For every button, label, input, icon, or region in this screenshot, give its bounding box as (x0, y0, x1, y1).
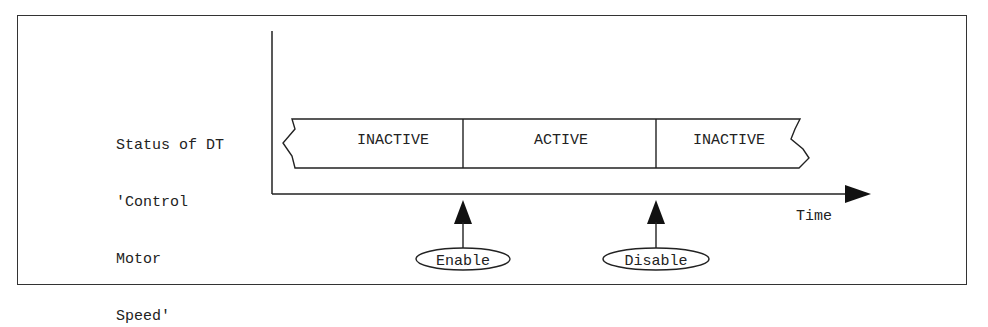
enable-event-label: Enable (436, 253, 490, 270)
x-axis-label: Time (796, 208, 832, 225)
state-label-inactive-1: INACTIVE (357, 132, 429, 149)
state-label-inactive-2: INACTIVE (693, 132, 765, 149)
state-label-active: ACTIVE (534, 132, 588, 149)
disable-event-label: Disable (624, 253, 687, 270)
disable-arrowhead-icon (647, 200, 665, 224)
x-axis-arrowhead-icon (845, 185, 871, 203)
y-axis-label-line-4: Speed' (116, 307, 224, 326)
enable-arrowhead-icon (454, 200, 472, 224)
